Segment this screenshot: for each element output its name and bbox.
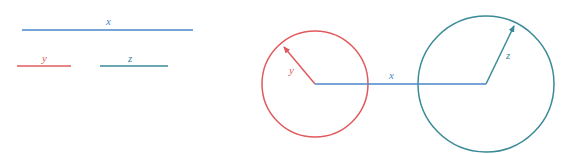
figure-z-label: z bbox=[505, 49, 511, 61]
figure-x-label: x bbox=[388, 69, 394, 81]
legend-x-label: x bbox=[105, 15, 111, 27]
figure-y-label: y bbox=[288, 64, 294, 76]
circles-figure: x y z bbox=[262, 16, 554, 152]
diagram-canvas: x y z x y z bbox=[0, 0, 570, 154]
legend-z-label: z bbox=[127, 52, 133, 64]
legend: x y z bbox=[17, 15, 193, 66]
legend-y-label: y bbox=[41, 52, 47, 64]
